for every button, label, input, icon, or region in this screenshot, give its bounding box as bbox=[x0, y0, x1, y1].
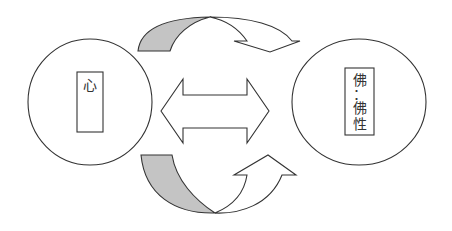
diagram-canvas bbox=[0, 0, 452, 231]
right-node-label: 佛 ： 佛 性 bbox=[345, 72, 374, 132]
right-label-line-4: 性 bbox=[345, 116, 374, 132]
left-node-label: 心 bbox=[77, 78, 103, 92]
bottom-arrow-head bbox=[215, 155, 296, 213]
double-arrow bbox=[161, 79, 269, 143]
bottom-arrow-tail bbox=[141, 155, 215, 213]
right-label-line-3: 佛 bbox=[345, 100, 374, 116]
right-label-line-2: ： bbox=[345, 88, 374, 100]
top-arrow-tail bbox=[138, 17, 210, 51]
top-arrow-head bbox=[210, 17, 300, 52]
